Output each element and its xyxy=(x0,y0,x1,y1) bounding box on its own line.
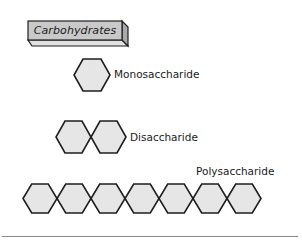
title-box-bottom-face xyxy=(28,40,128,46)
disaccharide-group xyxy=(56,121,126,153)
monosaccharide-label: Monosaccharide xyxy=(114,69,199,80)
hexagon-icon xyxy=(125,184,159,213)
monosaccharide-group xyxy=(74,59,110,91)
polysaccharide-group xyxy=(23,184,261,213)
polysaccharide-label: Polysaccharide xyxy=(196,166,274,177)
hexagon-icon xyxy=(23,184,57,213)
hexagon-icon xyxy=(74,59,110,91)
title-label: Carbohydrates xyxy=(28,21,122,40)
hexagon-icon xyxy=(91,184,125,213)
disaccharide-label: Disaccharide xyxy=(130,132,198,143)
divider-line xyxy=(2,236,298,237)
hexagon-icon xyxy=(91,121,126,153)
hexagon-icon xyxy=(193,184,227,213)
hexagon-icon xyxy=(57,184,91,213)
hexagon-icon xyxy=(227,184,261,213)
carbohydrates-diagram: Carbohydrates Monosaccharide Disaccharid… xyxy=(0,0,302,245)
hexagon-icon xyxy=(56,121,91,153)
hexagon-icon xyxy=(159,184,193,213)
